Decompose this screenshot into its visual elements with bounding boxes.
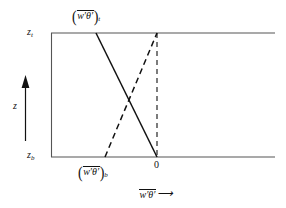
flux-top-w: w	[77, 10, 84, 21]
xaxis-title: w′θ′⟶	[139, 188, 173, 200]
flux-bottom-overbar-group: w′θ′	[83, 166, 100, 178]
ytick-zt-subscript: t	[31, 31, 33, 39]
flux-bottom-open-paren: (	[78, 165, 83, 182]
xaxis-overbar-group: w′θ′	[139, 189, 156, 201]
ytick-zb-subscript: b	[31, 154, 35, 162]
flux-top-overbar-group: w′θ′	[77, 10, 94, 22]
flux-top-close-paren: )	[94, 9, 99, 26]
flux-annotation-top: (w′θ′)t	[72, 10, 100, 24]
plot-canvas	[0, 0, 286, 208]
xaxis-prime-2: ′	[153, 189, 155, 200]
flux-bottom-w: w	[83, 166, 90, 177]
flux-annotation-bottom: (w′θ′)b	[78, 166, 108, 180]
dashed-flux-profile-line	[105, 33, 157, 157]
ytick-label-zt: zt	[27, 27, 33, 39]
flux-profile-figure: zt zb z (w′θ′)t (w′θ′)b 0 w′θ′⟶	[0, 0, 286, 208]
ytick-label-zb: zb	[27, 150, 34, 162]
z-axis-arrow-head	[22, 75, 30, 88]
xaxis-arrow-icon: ⟶	[157, 188, 173, 199]
yaxis-title-z: z	[13, 101, 17, 111]
flux-bottom-subscript: b	[104, 171, 108, 179]
flux-top-open-paren: (	[72, 9, 77, 26]
xtick-label-zero: 0	[154, 160, 159, 170]
solid-flux-profile-line	[96, 33, 157, 157]
flux-bottom-close-paren: )	[100, 165, 105, 182]
